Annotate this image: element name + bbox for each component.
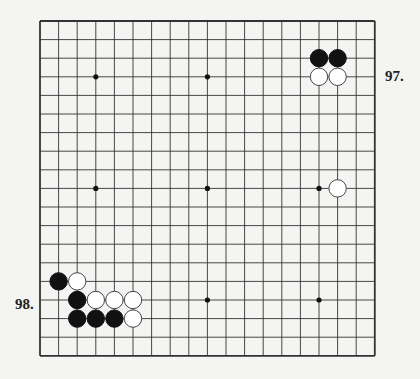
black-stone[interactable] bbox=[50, 273, 67, 290]
star-point bbox=[316, 186, 321, 191]
star-point bbox=[93, 74, 98, 79]
go-board bbox=[0, 0, 420, 379]
star-point bbox=[205, 186, 210, 191]
black-stone[interactable] bbox=[329, 50, 346, 67]
star-point bbox=[205, 297, 210, 302]
white-stone[interactable] bbox=[329, 68, 346, 85]
problem-label-98: 98. bbox=[15, 296, 34, 313]
white-stone[interactable] bbox=[87, 291, 104, 308]
star-point bbox=[316, 297, 321, 302]
black-stone[interactable] bbox=[69, 291, 86, 308]
star-point bbox=[205, 74, 210, 79]
star-point bbox=[93, 186, 98, 191]
white-stone[interactable] bbox=[69, 273, 86, 290]
black-stone[interactable] bbox=[69, 310, 86, 327]
black-stone[interactable] bbox=[106, 310, 123, 327]
white-stone[interactable] bbox=[124, 291, 141, 308]
black-stone[interactable] bbox=[87, 310, 104, 327]
white-stone[interactable] bbox=[106, 291, 123, 308]
white-stone[interactable] bbox=[329, 180, 346, 197]
problem-label-97: 97. bbox=[385, 68, 404, 85]
white-stone[interactable] bbox=[310, 68, 327, 85]
black-stone[interactable] bbox=[310, 50, 327, 67]
white-stone[interactable] bbox=[124, 310, 141, 327]
